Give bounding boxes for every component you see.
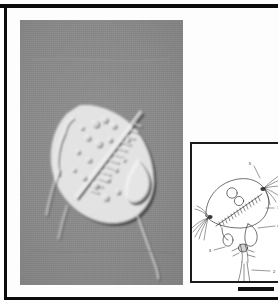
figure-frame-top	[0, 4, 278, 8]
micrograph-panel	[20, 20, 183, 285]
drawing-leader-lines	[214, 166, 275, 271]
inset-label-5: 5	[249, 161, 252, 166]
inset-box: 5 1 4 3 2	[190, 142, 278, 283]
drawing-left-appendage	[192, 206, 209, 240]
drawing-vacuole-lower	[234, 196, 243, 205]
scale-bar	[238, 287, 274, 291]
drawing-right-appendage	[264, 175, 278, 205]
figure-plate: 5 1 4 3 2	[0, 0, 278, 308]
micrograph-vignette	[20, 20, 183, 285]
drawing-vacuole-upper	[227, 188, 237, 198]
drawing-left-appendage-base	[207, 215, 212, 219]
inset-label-3: 3	[209, 248, 212, 253]
inset-line-drawing: 5 1 4 3 2	[192, 144, 278, 283]
inset-label-2: 2	[273, 269, 276, 274]
figure-frame-bottom	[4, 297, 278, 300]
drawing-foot	[232, 244, 255, 283]
inset-label-4: 4	[277, 223, 278, 228]
drawing-lateral-lobe	[245, 224, 257, 246]
drawing-body-outline	[206, 179, 269, 228]
drawing-right-appendage-base	[260, 187, 265, 191]
inset-label-1: 1	[277, 205, 278, 210]
drawing-band-serrations	[219, 196, 260, 227]
figure-frame-left	[4, 4, 7, 300]
